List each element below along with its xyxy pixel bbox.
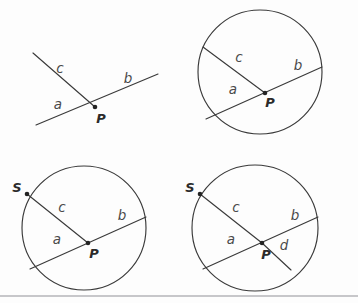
- panel-circle-labeled-s: c b a P S: [12, 166, 146, 290]
- label-b: b: [124, 70, 133, 86]
- label-c: c: [56, 60, 64, 76]
- label-a: a: [53, 231, 61, 247]
- figure-page: c b a P c b a P c b a P S: [0, 0, 358, 303]
- label-c: c: [58, 199, 66, 215]
- panel-circle-chords: c b a P: [198, 10, 322, 134]
- panel-angle: c b a P: [33, 53, 158, 126]
- ray-c-segment: [33, 53, 95, 107]
- circle-outline: [198, 10, 322, 134]
- circle-outline: [192, 165, 318, 291]
- label-point-p: P: [96, 111, 106, 126]
- circle-outline: [22, 166, 146, 290]
- point-p-marker: [93, 105, 98, 110]
- label-a: a: [227, 231, 235, 247]
- label-point-p: P: [89, 246, 99, 261]
- label-c: c: [235, 49, 243, 65]
- label-a: a: [229, 81, 237, 97]
- label-point-p: P: [261, 247, 271, 262]
- label-b: b: [118, 207, 127, 223]
- label-point-p: P: [265, 95, 275, 110]
- panel-circle-four-segments: c b a d P S: [185, 165, 318, 291]
- label-d: d: [280, 237, 289, 253]
- label-point-s: S: [185, 180, 194, 195]
- label-c: c: [232, 199, 240, 215]
- label-point-s: S: [12, 180, 21, 195]
- point-s-marker: [25, 192, 30, 197]
- label-b: b: [291, 207, 300, 223]
- point-s-marker: [198, 192, 203, 197]
- geometry-figure: c b a P c b a P c b a P S: [0, 0, 358, 303]
- point-p-marker: [260, 241, 265, 246]
- label-a: a: [54, 96, 62, 112]
- label-b: b: [294, 57, 303, 73]
